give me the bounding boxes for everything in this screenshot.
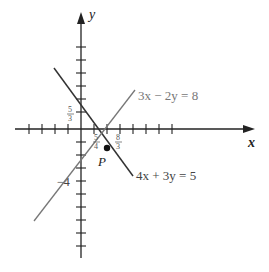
coordinate-plane: y x 3x − 2y = 8 4x + 3y = 5 P 5 3 5 4 8 … <box>0 0 269 272</box>
point-p-label: P <box>97 154 106 169</box>
svg-text:5: 5 <box>68 105 72 114</box>
y-axis <box>76 12 86 258</box>
y-intercept-label-neg4: −4 <box>57 175 70 189</box>
y-axis-label: y <box>87 7 96 22</box>
x-axis-arrow-icon <box>243 125 255 133</box>
line-4x-plus-3y-eq-5 <box>54 68 133 176</box>
svg-text:5: 5 <box>94 133 98 142</box>
intersection-point-p <box>104 145 110 151</box>
equation-label-line1: 3x − 2y = 8 <box>138 88 198 103</box>
x-axis-label: x <box>247 135 255 150</box>
x-axis <box>15 124 255 134</box>
y-axis-arrow-icon <box>77 12 85 24</box>
y-intercept-fraction-5-3: 5 3 <box>67 105 74 123</box>
x-intercept-fraction-8-3: 8 3 <box>115 133 122 151</box>
svg-text:4: 4 <box>94 142 98 151</box>
svg-text:8: 8 <box>116 133 120 142</box>
svg-text:3: 3 <box>116 142 120 151</box>
equation-label-line2: 4x + 3y = 5 <box>136 168 196 183</box>
svg-text:3: 3 <box>68 114 72 123</box>
